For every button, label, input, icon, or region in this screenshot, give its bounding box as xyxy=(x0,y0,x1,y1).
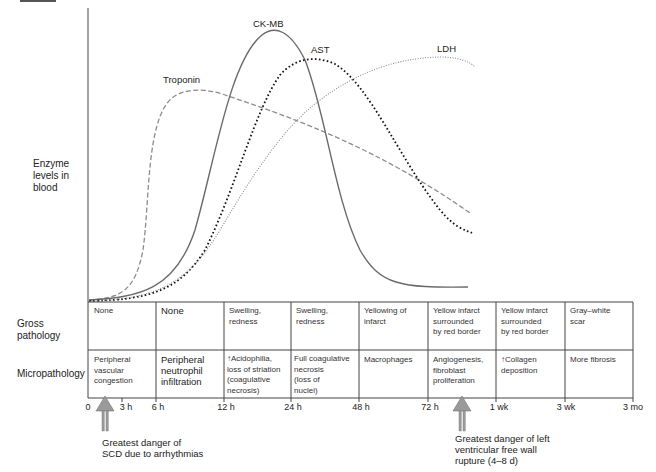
row-header-line: pathology xyxy=(17,330,60,342)
gross-cell: Yellow infarctsurroundedby red border xyxy=(501,306,549,338)
micro-cell: Peripheralvascularcongestion xyxy=(94,355,133,387)
cell-line: neutrophil xyxy=(161,365,204,376)
cell-line: (coagulative xyxy=(227,375,280,386)
cell-line: Angiogenesis, xyxy=(433,355,483,366)
x-tick-label: 1 wk xyxy=(490,402,509,412)
micro-cell: Angiogenesis,fibroblastproliferation xyxy=(433,355,483,387)
cell-line: None xyxy=(94,306,113,317)
cell-line: Gray–white xyxy=(570,306,610,317)
row-header-line: Gross xyxy=(17,318,60,330)
y-axis-label-line: levels in xyxy=(33,170,69,182)
micro-cell: Peripheralneutrophilinfiltration xyxy=(161,354,204,387)
micro-cell: ↑Collagendeposition xyxy=(501,355,537,376)
cell-line: proliferation xyxy=(433,376,483,387)
cell-line: Yellow infarct xyxy=(501,306,549,317)
cell-line: Peripheral xyxy=(161,354,204,365)
x-tick-label: 12 h xyxy=(217,402,235,412)
cell-line: vascular xyxy=(94,366,133,377)
cell-line: congestion xyxy=(94,376,133,387)
x-tick-label: 3 h xyxy=(120,402,133,412)
micro-cell: ↑Acidophilia,loss of striation(coagulati… xyxy=(227,354,280,396)
gross-cell: Yellow infarctsurroundedby red border xyxy=(433,306,481,338)
cell-line: Yellow infarct xyxy=(433,306,481,317)
cell-line: redness xyxy=(229,317,261,328)
cell-line: Peripheral xyxy=(94,355,133,366)
y-axis-label: Enzyme levels in blood xyxy=(33,158,69,194)
x-tick-label: 72 h xyxy=(421,402,439,412)
cell-line: None xyxy=(161,305,184,316)
ckmb-curve xyxy=(89,30,468,300)
cell-line: (loss of xyxy=(294,375,350,386)
scd-danger-arrow-icon xyxy=(96,396,114,431)
gross-cell: Swelling,redness xyxy=(229,306,261,327)
x-tick-label: 6 h xyxy=(152,402,165,412)
x-tick-label: 3 wk xyxy=(557,402,576,412)
gross-cell: Gray–whitescar xyxy=(570,306,610,327)
cell-line: Swelling, xyxy=(296,306,328,317)
cell-line: More fibrosis xyxy=(570,355,616,366)
y-axis-label-line: blood xyxy=(33,182,69,194)
micro-cell: Macrophages xyxy=(364,355,412,366)
note-line: ventricular free wall xyxy=(455,444,550,455)
note-line: rupture (4–8 d) xyxy=(455,455,550,466)
ast-label: AST xyxy=(311,44,329,55)
cell-line: necrosis xyxy=(294,365,350,376)
gross-pathology-row-header: Gross pathology xyxy=(17,318,60,342)
troponin-label: Troponin xyxy=(163,74,200,85)
cell-line: infarct xyxy=(364,317,406,328)
ldh-label: LDH xyxy=(437,43,456,54)
cell-line: deposition xyxy=(501,366,537,377)
cell-line: surrounded xyxy=(433,317,481,328)
gross-cell: Swelling,redness xyxy=(296,306,328,327)
cell-line: scar xyxy=(570,317,610,328)
gross-cell: None xyxy=(161,305,184,316)
cell-line: by red border xyxy=(433,327,481,338)
ckmb-label: CK-MB xyxy=(253,18,284,29)
cell-line: by red border xyxy=(501,327,549,338)
cell-line: ↑Acidophilia, xyxy=(227,354,280,365)
micro-cell: More fibrosis xyxy=(570,355,616,366)
cell-line: nuclei) xyxy=(294,386,350,397)
cell-line: ↑Collagen xyxy=(501,355,537,366)
pathology-table-grid xyxy=(88,302,633,402)
cell-line: surrounded xyxy=(501,317,549,328)
note-line: Greatest danger of xyxy=(102,437,203,448)
note-line: Greatest danger of left xyxy=(455,433,550,444)
micropathology-row-header: Micropathology xyxy=(17,368,85,380)
cell-line: Yellowing of xyxy=(364,306,406,317)
scd-danger-note: Greatest danger of SCD due to arrhythmia… xyxy=(102,437,203,459)
cell-line: infiltration xyxy=(161,376,204,387)
rupture-danger-note: Greatest danger of left ventricular free… xyxy=(455,433,550,466)
cell-line: Swelling, xyxy=(229,306,261,317)
y-axis-label-line: Enzyme xyxy=(33,158,69,170)
gross-cell: None xyxy=(94,306,113,317)
x-tick-label: 24 h xyxy=(284,402,302,412)
x-tick-label: 0 xyxy=(85,402,90,412)
cell-line: redness xyxy=(296,317,328,328)
cell-line: Macrophages xyxy=(364,355,412,366)
troponin-curve xyxy=(89,90,470,300)
micro-cell: Full coagulativenecrosis(loss ofnuclei) xyxy=(294,354,350,396)
gross-cell: Yellowing ofinfarct xyxy=(364,306,406,327)
x-tick-label: 48 h xyxy=(352,402,370,412)
note-line: SCD due to arrhythmias xyxy=(102,448,203,459)
cell-line: Full coagulative xyxy=(294,354,350,365)
cell-line: loss of striation xyxy=(227,365,280,376)
cell-line: fibroblast xyxy=(433,366,483,377)
rupture-danger-arrow-icon xyxy=(453,396,471,431)
ast-curve xyxy=(89,59,472,301)
cell-line: necrosis) xyxy=(227,386,280,397)
x-tick-label: 3 mo xyxy=(623,402,643,412)
